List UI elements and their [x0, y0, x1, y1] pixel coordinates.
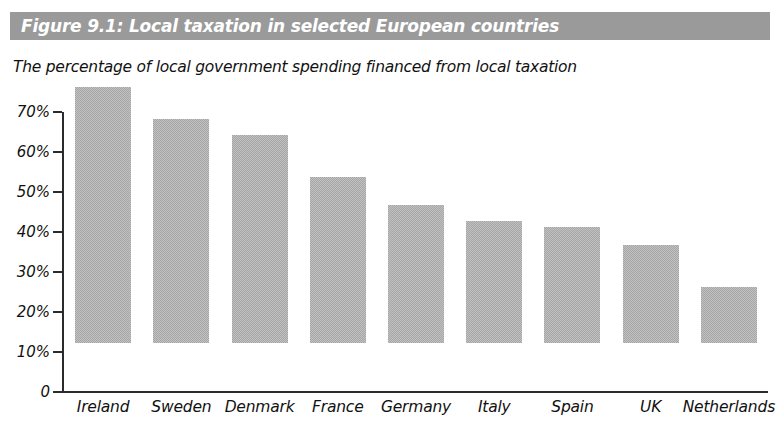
bar — [466, 221, 522, 343]
bar — [388, 205, 444, 343]
bar — [544, 227, 600, 343]
bar — [153, 119, 209, 343]
bar — [75, 87, 131, 343]
x-axis-category-label: Netherlands — [683, 398, 775, 416]
x-axis-category-label: Denmark — [225, 398, 295, 416]
x-axis-category-label: France — [312, 398, 363, 416]
x-axis-category-label: UK — [640, 398, 661, 416]
x-axis-category-label: Ireland — [77, 398, 130, 416]
bar — [310, 177, 366, 343]
x-axis-category-label: Germany — [381, 398, 451, 416]
x-axis-category-labels: IrelandSwedenDenmarkFranceGermanyItalySp… — [0, 398, 780, 438]
bar — [623, 245, 679, 343]
x-axis-category-label: Spain — [551, 398, 593, 416]
bar-series — [0, 96, 780, 396]
chart-plot-area: 010%20%30%40%50%60%70% IrelandSwedenDenm… — [0, 96, 780, 445]
bar — [232, 135, 288, 343]
x-axis-category-label: Italy — [478, 398, 511, 416]
figure-title-banner: Figure 9.1: Local taxation in selected E… — [10, 12, 770, 40]
chart-subtitle: The percentage of local government spend… — [13, 58, 577, 76]
bar — [701, 287, 757, 343]
x-axis-category-label: Sweden — [151, 398, 211, 416]
figure-title-text: Figure 9.1: Local taxation in selected E… — [10, 16, 559, 36]
